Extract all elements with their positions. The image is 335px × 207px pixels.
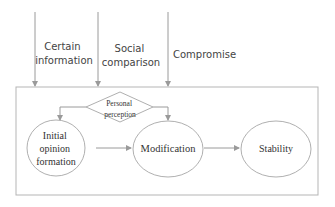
stage-label-modification: Modification xyxy=(141,143,197,154)
input-label-social-comparison: Social comparison xyxy=(102,43,160,68)
perception-to-modification-arrow xyxy=(153,107,168,120)
input-label-certain-information: Certain information xyxy=(35,41,93,66)
stage-label-stability: Stability xyxy=(259,143,293,154)
opinion-formation-diagram: Certain information Social comparison Co… xyxy=(0,0,335,207)
perception-to-initial-arrow xyxy=(60,107,86,120)
input-label-compromise: Compromise xyxy=(173,49,236,60)
